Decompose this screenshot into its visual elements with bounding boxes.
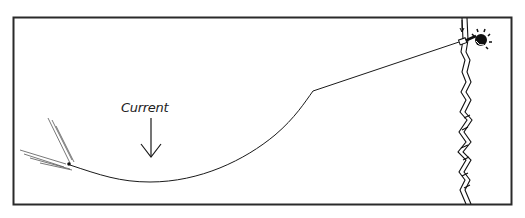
current-arrow-icon — [141, 118, 161, 157]
current-label: Current — [121, 100, 169, 115]
lure-wake — [20, 118, 74, 170]
bank-arrow-icon — [460, 20, 464, 32]
diagram-canvas: Current — [0, 0, 525, 218]
diagram-frame — [14, 18, 512, 205]
angler-head-icon — [472, 29, 492, 49]
lure-icon — [67, 162, 71, 166]
river-bank — [458, 18, 472, 204]
rod-handle — [458, 38, 466, 45]
